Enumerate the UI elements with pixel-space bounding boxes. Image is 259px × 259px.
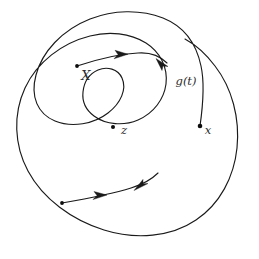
figure-canvas: X g(t) z x [0, 0, 259, 259]
label-curve-gt: g(t) [176, 74, 197, 88]
label-point-z: z [120, 123, 128, 137]
diagram-svg: X g(t) z x [0, 0, 259, 259]
label-point-x: x [205, 123, 212, 137]
lower-directed-path [62, 173, 158, 203]
point-x-dot [198, 124, 203, 129]
label-region-X: X [80, 68, 91, 83]
lower-path-arrow-icon [93, 192, 107, 200]
inner-curve-arrow-icon [134, 179, 148, 190]
upper-path-arrow-icon [114, 50, 128, 59]
point-z-dot [111, 125, 115, 129]
upper-path-start-dot [75, 64, 79, 68]
lower-path-start-dot [60, 201, 64, 205]
